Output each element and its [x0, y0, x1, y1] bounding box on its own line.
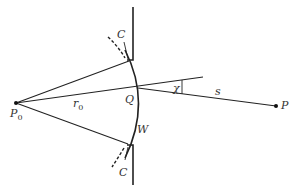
diffraction-diagram: C C Q W χ s P P0 r0 [0, 0, 298, 196]
label-r0: r0 [73, 97, 83, 112]
label-q: Q [125, 93, 134, 106]
label-w: W [137, 123, 150, 136]
screen-top-wall [127, 7, 133, 60]
label-r0-sub: 0 [78, 103, 83, 112]
s-ray [138, 88, 276, 106]
label-c-bottom: C [119, 166, 128, 179]
label-chi: χ [172, 82, 181, 95]
ray-to-bottom-edge [16, 103, 128, 144]
observation-point-p [274, 104, 278, 108]
dashed-arcs [108, 37, 125, 167]
source-point-p0 [14, 101, 18, 105]
label-s: s [215, 85, 221, 98]
label-p0: P0 [9, 107, 23, 122]
dashed-arc-bottom [112, 148, 124, 167]
label-p: P [280, 99, 289, 112]
label-c-top: C [117, 28, 126, 41]
label-p0-sub: 0 [17, 113, 22, 122]
